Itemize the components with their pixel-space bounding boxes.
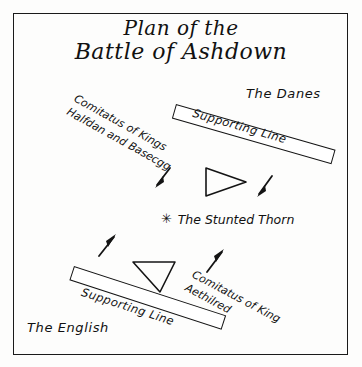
- title-line-2: Battle of Ashdown: [0, 40, 362, 64]
- page-title: Plan of the Battle of Ashdown: [0, 18, 362, 63]
- stunted-thorn-icon: ✳: [161, 212, 172, 225]
- english-army-label: The English: [27, 320, 109, 335]
- title-line-1: Plan of the: [0, 18, 362, 40]
- stunted-thorn-label: The Stunted Thorn: [176, 212, 296, 227]
- battle-plan-figure: Plan of the Battle of Ashdown Supporting…: [0, 0, 362, 367]
- danes-army-label: The Danes: [246, 86, 321, 101]
